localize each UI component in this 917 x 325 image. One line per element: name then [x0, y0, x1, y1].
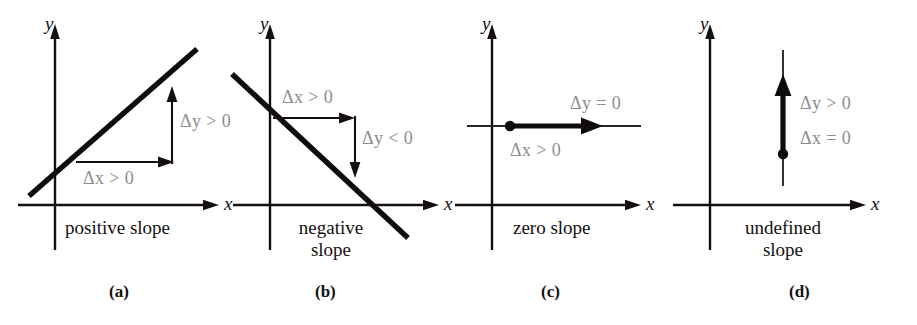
delta-y-annotation-d: Δy > 0: [800, 94, 851, 112]
y-axis-d: [705, 24, 715, 250]
caption-d-line2: slope: [763, 239, 803, 260]
x-axis-label-d: x: [871, 194, 879, 213]
panel-d-graphic: [685, 0, 917, 325]
delta-y-annotation-b: Δy < 0: [362, 129, 413, 147]
caption-b-line1: negative: [299, 217, 363, 238]
delta-y-arrow-a: [167, 86, 178, 164]
panel-letter-d: (d): [789, 283, 810, 300]
delta-y-annotation-c: Δy = 0: [570, 94, 621, 112]
panel-letter-c: (c): [541, 283, 560, 300]
delta-y-annotation-a: Δy > 0: [180, 112, 231, 130]
delta-x-annotation-d: Δx = 0: [800, 129, 851, 147]
caption-d: undefined slope: [717, 217, 849, 262]
delta-y-arrow-d: [775, 74, 792, 154]
delta-x-annotation-c: Δx > 0: [510, 141, 561, 159]
point-marker-d: [778, 149, 788, 159]
x-axis-label-c: x: [646, 194, 654, 213]
panel-negative-slope: y x Δx > 0 Δy < 0 negative slope (b): [230, 0, 460, 325]
x-axis-d: [673, 200, 866, 210]
x-axis-a: [18, 200, 219, 210]
delta-x-arrow-a: [76, 156, 174, 167]
y-axis-label-a: y: [45, 14, 53, 33]
delta-x-annotation-b: Δx > 0: [282, 88, 333, 106]
panel-undefined-slope: y x Δy > 0 Δx = 0 undefined slope (d): [685, 0, 917, 325]
panel-a-graphic: [0, 0, 230, 325]
caption-a: positive slope: [65, 217, 170, 239]
y-axis-label-d: y: [700, 14, 708, 33]
panel-b-graphic: [230, 0, 460, 325]
y-axis-a: [50, 24, 60, 250]
slope-illustration-figure: y x Δy > 0 Δx > 0 positive slope (a): [0, 0, 917, 325]
x-axis-b: [233, 200, 439, 210]
y-axis-c: [487, 24, 497, 250]
panel-letter-b: (b): [315, 283, 336, 300]
panel-zero-slope: y x Δy = 0 Δx > 0 zero slope (c): [460, 0, 685, 325]
caption-d-line1: undefined: [745, 217, 821, 238]
caption-b-line2: slope: [311, 239, 351, 260]
panel-c-graphic: [460, 0, 685, 325]
delta-x-annotation-a: Δx > 0: [83, 169, 134, 187]
delta-y-arrow-b: [350, 116, 361, 178]
caption-c: zero slope: [513, 217, 591, 239]
delta-x-arrow-c: [510, 118, 603, 135]
y-axis-label-c: y: [482, 14, 490, 33]
x-axis-label-b: x: [444, 194, 452, 213]
x-axis-c: [455, 200, 641, 210]
panel-positive-slope: y x Δy > 0 Δx > 0 positive slope (a): [0, 0, 230, 325]
caption-b: negative slope: [271, 217, 391, 262]
panel-letter-a: (a): [109, 283, 129, 300]
y-axis-label-b: y: [260, 14, 268, 33]
point-marker-c: [505, 121, 515, 131]
